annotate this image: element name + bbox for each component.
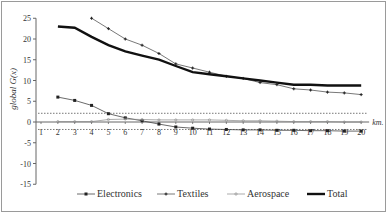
marker-electronics xyxy=(107,112,110,115)
marker-electronics xyxy=(343,130,346,133)
line-chart: 2520151050-5-10-15global G(x)12345678910… xyxy=(2,2,387,213)
y-tick-label: 5 xyxy=(27,97,31,106)
marker-electronics xyxy=(292,129,295,132)
marker-electronics xyxy=(225,128,228,131)
y-tick-label: 15 xyxy=(23,56,31,65)
legend-marker xyxy=(85,193,88,196)
series-total xyxy=(58,27,361,86)
legend-label-electronics: Electronics xyxy=(97,188,142,199)
marker-electronics xyxy=(259,128,262,131)
chart-frame: 2520151050-5-10-15global G(x)12345678910… xyxy=(1,1,386,212)
series-electronics xyxy=(58,97,361,131)
y-tick-label: -10 xyxy=(20,160,31,169)
marker-electronics xyxy=(157,123,160,126)
marker-electronics xyxy=(208,128,211,131)
y-axis-title: global G(x) xyxy=(8,68,18,110)
marker-electronics xyxy=(174,125,177,128)
marker-electronics xyxy=(326,129,329,132)
legend-label-textiles: Textiles xyxy=(177,188,209,199)
marker-electronics xyxy=(90,104,93,107)
marker-electronics xyxy=(275,129,278,132)
marker-electronics xyxy=(309,129,312,132)
marker-electronics xyxy=(360,130,363,133)
x-axis-title: km. xyxy=(372,118,383,127)
y-tick-label: 25 xyxy=(23,14,31,23)
y-tick-label: 0 xyxy=(27,118,31,127)
legend-label-aerospace: Aerospace xyxy=(247,188,290,199)
marker-electronics xyxy=(56,96,59,99)
legend-label-total: Total xyxy=(327,188,348,199)
series-textiles xyxy=(92,18,362,94)
y-tick-label: -5 xyxy=(24,139,31,148)
marker-electronics xyxy=(242,128,245,131)
y-tick-label: 10 xyxy=(23,77,31,86)
marker-electronics xyxy=(73,99,76,102)
marker-electronics xyxy=(191,127,194,130)
y-tick-label: -15 xyxy=(20,180,31,189)
y-tick-label: 20 xyxy=(23,35,31,44)
